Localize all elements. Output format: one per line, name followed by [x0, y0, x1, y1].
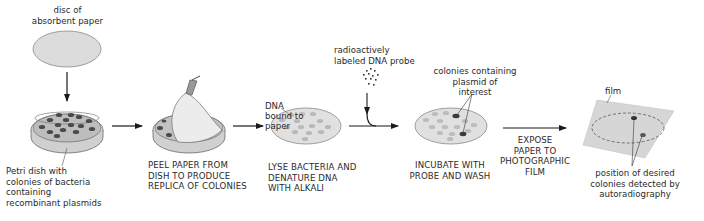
absorbent-paper-disc: [33, 31, 101, 67]
step-lyse-caption: LYSE BACTERIA AND DENATURE DNA WITH ALKA…: [268, 162, 378, 194]
probed-paper-disc: [415, 94, 487, 144]
colonies-of-interest-label: colonies containing plasmid of interest: [425, 66, 525, 98]
autoradiography-label: position of desired colonies detected by…: [580, 168, 690, 200]
dna-bound-label: DNA bound to paper: [265, 101, 315, 131]
photographic-film: [583, 95, 674, 166]
petri-dish-label: Petri dish with colonies of bacteria con…: [6, 166, 126, 208]
film-label: film: [605, 86, 635, 97]
step-incubate-caption: INCUBATE WITH PROBE AND WASH: [400, 160, 500, 181]
step-expose-caption: EXPOSE PAPER TO PHOTOGRAPHIC FILM: [496, 135, 574, 177]
radioactive-probe-dots: [363, 68, 379, 86]
colony-hybridization-diagram: disc of absorbent paper Petri dish with …: [0, 0, 704, 221]
step-peel-caption: PEEL PAPER FROM DISH TO PRODUCE REPLICA …: [148, 160, 258, 192]
peel-paper-illustration: [153, 76, 225, 153]
probe-label: radioactively labeled DNA probe: [334, 45, 434, 66]
disc-label: disc of absorbent paper: [20, 5, 115, 26]
petri-dish: [31, 112, 103, 166]
